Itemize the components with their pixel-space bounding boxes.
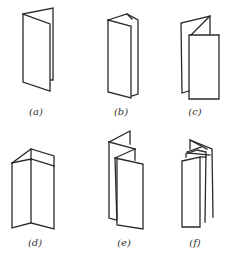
folding-diagram-canvas bbox=[0, 0, 230, 253]
figure-label-e: (e) bbox=[109, 237, 139, 249]
figure-label-d: (d) bbox=[20, 237, 50, 249]
figure-label-f: (f) bbox=[180, 237, 210, 249]
figure-b-drawing bbox=[108, 14, 138, 98]
figure-a-drawing bbox=[23, 8, 53, 91]
figure-c-drawing bbox=[181, 16, 219, 99]
figure-e-drawing bbox=[109, 131, 143, 229]
figure-f-drawing bbox=[182, 140, 213, 227]
figure-d-drawing bbox=[12, 149, 54, 229]
figure-label-b: (b) bbox=[106, 106, 136, 118]
figure-label-a: (a) bbox=[21, 106, 51, 118]
figure-label-c: (c) bbox=[180, 106, 210, 118]
